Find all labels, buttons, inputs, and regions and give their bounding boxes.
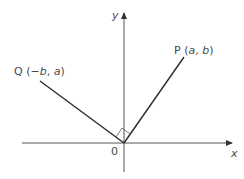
y-axis-label: y bbox=[111, 9, 119, 22]
point-p-label: P (a, b) bbox=[174, 44, 213, 57]
right-angle-marker bbox=[116, 128, 130, 137]
point-q-open: ( bbox=[23, 65, 31, 78]
segment-op bbox=[124, 57, 184, 143]
point-q-sep: , bbox=[47, 65, 54, 78]
point-q-name: Q bbox=[14, 65, 23, 78]
diagram-canvas: y x 0 P (a, b) Q (−b, a) bbox=[0, 0, 244, 179]
point-p-coord-y: b bbox=[202, 44, 209, 57]
point-q-coord-x: −b bbox=[30, 65, 46, 78]
origin-label: 0 bbox=[111, 145, 118, 158]
point-p-open: ( bbox=[181, 44, 189, 57]
point-q-label: Q (−b, a) bbox=[14, 65, 65, 78]
point-p-sep: , bbox=[195, 44, 202, 57]
x-axis-label: x bbox=[230, 147, 238, 160]
point-p-close: ) bbox=[209, 44, 213, 57]
vector-diagram: y x 0 P (a, b) Q (−b, a) bbox=[0, 0, 244, 179]
segment-oq bbox=[40, 81, 124, 143]
point-q-close: ) bbox=[60, 65, 64, 78]
